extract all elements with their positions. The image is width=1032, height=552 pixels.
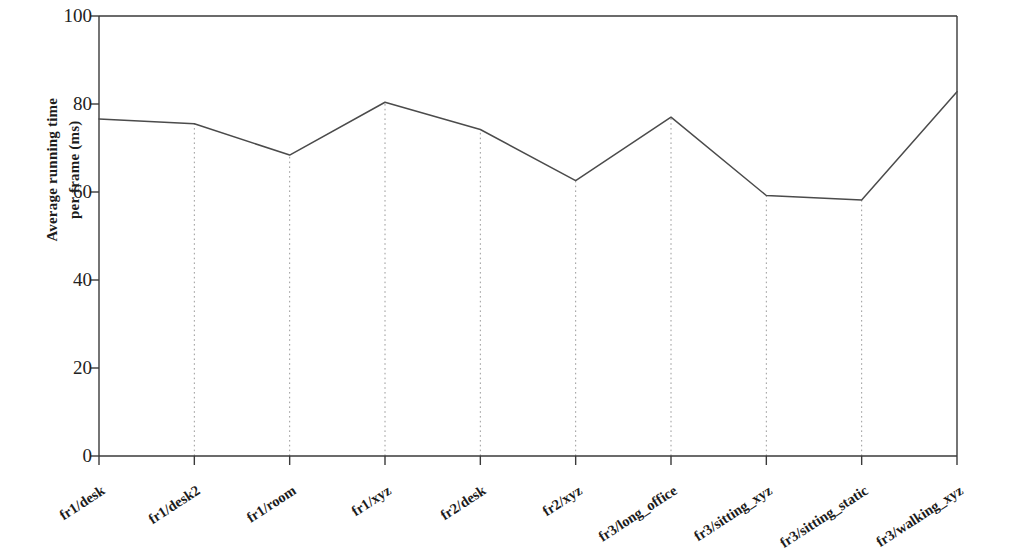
y-tick-label: 80 <box>30 93 92 115</box>
series-polyline <box>99 92 957 200</box>
data-series-line <box>99 92 957 200</box>
y-tick-label: 100 <box>30 5 92 27</box>
axes <box>99 16 957 456</box>
y-tick-label: 0 <box>30 445 92 467</box>
tick-marks <box>90 16 957 465</box>
y-tick-label: 60 <box>30 181 92 203</box>
y-tick-label: 20 <box>30 357 92 379</box>
y-axis-tick-labels: 020406080100 <box>22 0 92 546</box>
y-tick-label: 40 <box>30 269 92 291</box>
